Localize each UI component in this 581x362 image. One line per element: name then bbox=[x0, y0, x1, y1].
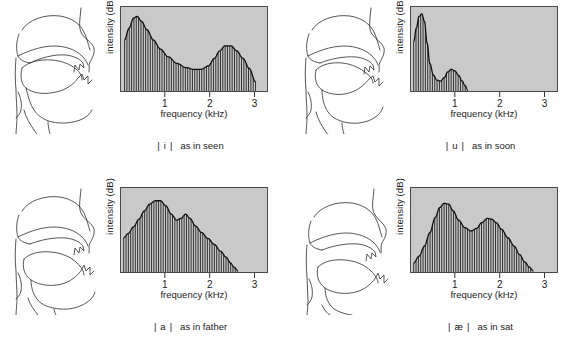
y-axis-label: intensity (dB) bbox=[104, 0, 115, 61]
vocal-tract-diagram-a bbox=[4, 187, 108, 315]
spectrum-plot-u: intensity (dB) 1 2 3 frequency (kHz) bbox=[386, 4, 574, 132]
panel-vowel-i: intensity (dB) 1 2 3 frequency (kHz) bbox=[0, 0, 290, 181]
vocal-tract-diagram-u bbox=[294, 6, 398, 134]
caption-text: as in father bbox=[173, 321, 227, 332]
panel-vowel-a: intensity (dB) 1 2 3 frequency (kHz) bbox=[0, 181, 290, 362]
phonetic-symbol: æ bbox=[452, 321, 466, 332]
caption-text: as in soon bbox=[465, 140, 515, 151]
spectrum-plot-ae: intensity (dB) 1 2 3 frequency (kHz) bbox=[386, 185, 574, 313]
x-axis-u: 1 2 3 bbox=[410, 92, 558, 108]
x-axis-label: frequency (kHz) bbox=[410, 108, 558, 119]
caption-vowel-a: |a|as in father bbox=[96, 321, 284, 332]
x-axis-ae: 1 2 3 bbox=[410, 273, 558, 289]
panel-vowel-u: intensity (dB) 1 2 3 frequency (kHz) bbox=[290, 0, 581, 181]
x-axis-label: frequency (kHz) bbox=[120, 108, 268, 119]
y-axis-label: intensity (dB) bbox=[394, 172, 405, 242]
phonetic-symbol: i bbox=[161, 140, 169, 151]
x-axis-label: frequency (kHz) bbox=[410, 289, 558, 300]
plot-area-u bbox=[410, 6, 558, 92]
plot-area-i bbox=[120, 6, 268, 92]
x-axis-i: 1 2 3 bbox=[120, 92, 268, 108]
vocal-tract-diagram-i bbox=[4, 6, 108, 134]
caption-text: as in sat bbox=[471, 321, 513, 332]
spectrum-svg-ae bbox=[411, 188, 558, 273]
caption-vowel-i: |i|as in seen bbox=[96, 140, 284, 151]
caption-vowel-u: |u|as in soon bbox=[386, 140, 574, 151]
spectrum-svg-u bbox=[411, 7, 558, 92]
caption-text: as in seen bbox=[173, 140, 223, 151]
spectrum-plot-a: intensity (dB) 1 2 3 frequency (kHz) bbox=[96, 185, 284, 313]
caption-vowel-ae: |æ|as in sat bbox=[386, 321, 574, 332]
plot-area-a bbox=[120, 187, 268, 273]
y-axis-label: intensity (dB) bbox=[104, 172, 115, 242]
spectrum-plot-i: intensity (dB) 1 2 3 frequency (kHz) bbox=[96, 4, 284, 132]
x-axis-label: frequency (kHz) bbox=[120, 289, 268, 300]
phonetic-symbol: a bbox=[157, 321, 168, 332]
spectrum-svg-a bbox=[121, 188, 268, 273]
phonetic-bar-right: | bbox=[466, 321, 470, 332]
x-axis-a: 1 2 3 bbox=[120, 273, 268, 289]
vowel-panel-grid: intensity (dB) 1 2 3 frequency (kHz) bbox=[0, 0, 581, 362]
y-axis-label: intensity (dB) bbox=[394, 0, 405, 61]
spectrum-svg-i bbox=[121, 7, 268, 92]
plot-area-ae bbox=[410, 187, 558, 273]
phonetic-symbol: u bbox=[449, 140, 460, 151]
vocal-tract-diagram-ae bbox=[294, 187, 398, 315]
phonetic-bar-left: | bbox=[447, 321, 451, 332]
panel-vowel-ae: intensity (dB) 1 2 3 frequency (kHz) bbox=[290, 181, 581, 362]
